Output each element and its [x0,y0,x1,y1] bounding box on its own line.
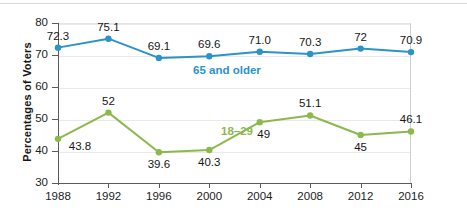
x-axis-line [58,183,411,184]
x-axis-tick [159,183,160,188]
y-axis-tick-label: 30 [0,176,48,188]
y-axis-tick [52,87,58,88]
data-point-label: 51.1 [285,97,335,109]
series-legend-label: 65 and older [167,64,287,76]
chart-figure: Percentages of Voters 304050607080 19881… [0,0,467,221]
data-point-label: 39.6 [134,158,184,170]
y-axis-tick-label: 40 [0,144,48,156]
x-axis-tick [310,183,311,188]
y-axis-tick-label: 80 [0,16,48,28]
data-point-label: 70.3 [285,36,335,48]
data-point-label: 40.3 [184,156,234,168]
y-axis-tick [52,119,58,120]
data-point-label: 72.3 [33,30,83,42]
x-axis-tick-label: 2016 [381,190,441,202]
gridline [58,56,410,57]
y-axis-line [58,23,59,185]
y-axis-tick-label: 50 [0,112,48,124]
data-point-label: 70.9 [386,34,436,46]
y-axis-tick [52,55,58,56]
gridline [58,88,410,89]
top-divider [0,3,467,4]
y-axis-tick [52,183,58,184]
y-axis-tick-label: 70 [0,48,48,60]
data-point-label: 71.0 [235,34,285,46]
data-point-label: 75.1 [83,21,133,33]
x-axis-tick [260,183,261,188]
data-point-label: 52 [83,95,133,107]
y-axis-tick-label: 60 [0,80,48,92]
x-axis-tick [108,183,109,188]
data-point-label: 45 [336,141,386,153]
x-axis-tick [361,183,362,188]
data-point-label: 69.6 [184,38,234,50]
data-point-label: 43.8 [55,140,105,152]
data-point-label: 69.1 [134,40,184,52]
x-axis-tick [209,183,210,188]
gridline [58,120,410,121]
series-legend-label: 18–29 [177,125,297,137]
x-axis-tick [411,183,412,188]
data-point-label: 72 [336,31,386,43]
data-point-label: 46.1 [386,113,436,125]
y-axis-tick [52,23,58,24]
